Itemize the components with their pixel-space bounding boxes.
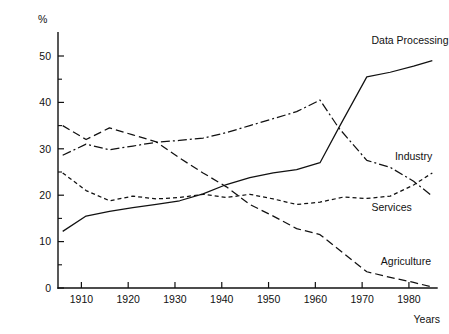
x-tick-label: 1920 [117, 293, 141, 305]
x-axis-ticks: 19101920193019401950196019701980 [70, 282, 421, 305]
x-tick-label: 1960 [304, 293, 328, 305]
series-label-industry: Industry [395, 150, 433, 162]
series-label-services: Services [371, 201, 411, 213]
x-tick-label: 1950 [257, 293, 281, 305]
x-tick-label: 1930 [163, 293, 187, 305]
axis-group [58, 33, 437, 288]
series-labels: Data ProcessingIndustryServicesAgricultu… [371, 34, 448, 266]
series-label-agriculture: Agriculture [381, 255, 431, 267]
x-tick-label: 1980 [397, 293, 421, 305]
series-label-data-processing: Data Processing [371, 34, 448, 46]
chart-container: 01020304050 1910192019301940195019601970… [0, 0, 449, 334]
line-chart: 01020304050 1910192019301940195019601970… [0, 0, 449, 334]
y-tick-label: 0 [45, 282, 51, 294]
series-line-industry [63, 100, 433, 196]
y-tick-label: 40 [39, 96, 51, 108]
x-axis-caption: Years [414, 313, 440, 325]
y-tick-label: 10 [39, 235, 51, 247]
y-tick-label: 30 [39, 143, 51, 155]
series-lines [63, 61, 433, 287]
y-axis-caption: % [38, 13, 47, 25]
y-tick-label: 50 [39, 50, 51, 62]
x-tick-label: 1910 [70, 293, 94, 305]
x-tick-label: 1940 [210, 293, 234, 305]
x-tick-label: 1970 [350, 293, 374, 305]
y-tick-label: 20 [39, 189, 51, 201]
y-axis-ticks: 01020304050 [39, 50, 64, 294]
